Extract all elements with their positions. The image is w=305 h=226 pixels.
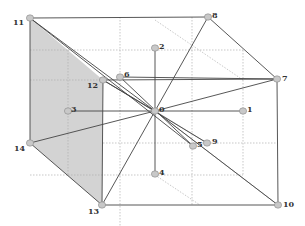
node-1: 1	[239, 104, 252, 114]
node-label: 3	[71, 104, 77, 114]
node-label: 8	[212, 10, 218, 20]
edge-0-10	[155, 111, 278, 205]
node-marker	[26, 15, 33, 21]
edge-6-7	[120, 77, 277, 79]
node-marker	[274, 202, 281, 208]
node-label: 12	[87, 80, 98, 90]
node-8: 8	[204, 10, 218, 20]
node-label: 9	[212, 136, 218, 146]
node-marker	[98, 202, 105, 208]
node-marker	[99, 77, 106, 83]
node-marker	[116, 74, 123, 80]
node-label: 1	[247, 104, 253, 114]
node-2: 2	[151, 41, 164, 51]
node-6: 6	[116, 69, 130, 80]
node-marker	[151, 171, 158, 177]
cube-graph-diagram: 01234567891011121314	[0, 0, 305, 226]
node-marker	[203, 140, 210, 146]
node-marker	[151, 108, 158, 114]
node-label: 0	[159, 104, 165, 114]
node-marker	[239, 108, 246, 114]
node-0: 0	[151, 104, 165, 114]
node-label: 10	[283, 199, 295, 209]
node-9: 9	[203, 136, 218, 146]
edge-12-0	[103, 80, 155, 111]
node-label: 2	[159, 41, 165, 51]
node-marker	[273, 76, 280, 82]
node-marker	[26, 140, 33, 146]
node-label: 5	[197, 139, 203, 149]
edge-0-7	[155, 79, 277, 111]
edge-11-8	[30, 17, 208, 18]
node-label: 6	[124, 69, 130, 79]
node-marker	[189, 143, 196, 149]
hidden-edge	[155, 175, 200, 205]
node-label: 14	[14, 143, 26, 153]
edge-0-13	[102, 111, 155, 205]
node-label: 11	[13, 17, 24, 27]
edge-7-10	[277, 79, 278, 205]
node-13: 13	[88, 202, 106, 216]
node-7: 7	[273, 73, 287, 83]
node-4: 4	[151, 167, 165, 177]
node-label: 7	[282, 73, 288, 83]
edge-8-7	[208, 17, 277, 79]
node-10: 10	[274, 199, 294, 209]
node-label: 13	[88, 206, 100, 216]
edge-0-8	[155, 17, 208, 111]
node-marker	[151, 45, 158, 51]
node-14: 14	[14, 140, 34, 153]
node-marker	[204, 14, 211, 20]
edge-12-7	[103, 79, 277, 80]
node-5: 5	[189, 139, 202, 149]
node-label: 4	[159, 167, 165, 177]
